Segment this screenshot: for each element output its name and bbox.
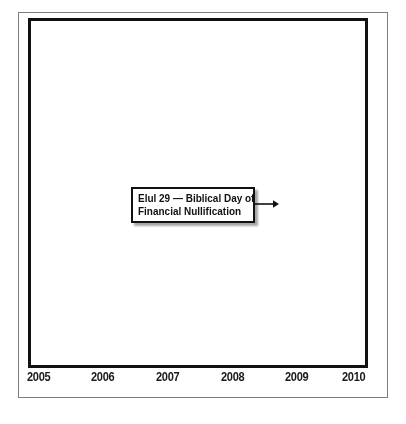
x-tick-label-2008: 2008 [221,370,244,384]
annotation-line-2: Financial Nullification [138,205,243,218]
chart-figure: 200520062007200820092010 Elul 29 — Bibli… [0,0,406,424]
x-tick-label-2005: 2005 [27,370,50,384]
x-tick-label-2007: 2007 [156,370,179,384]
annotation-line-1: Elul 29 — Biblical Day of [138,192,243,205]
x-tick-label-2006: 2006 [91,370,114,384]
x-tick-label-2010: 2010 [342,370,365,384]
x-tick-label-2009: 2009 [285,370,308,384]
arrow-right-icon [255,198,279,210]
x-axis-tick-labels: 200520062007200820092010 [28,370,368,390]
annotation-callout: Elul 29 — Biblical Day of Financial Null… [131,187,255,223]
